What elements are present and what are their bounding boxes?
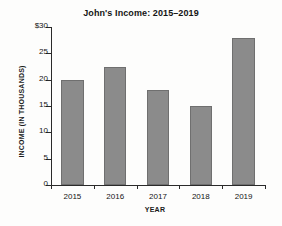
y-tick-label: 0: [44, 179, 48, 188]
x-tick-mark: [51, 185, 52, 189]
x-tick-mark: [137, 185, 138, 189]
bar-chart-figure: John's Income: 2015–2019 INCOME (IN THOU…: [0, 0, 282, 226]
y-axis-line: [51, 27, 52, 186]
bar-2016: [104, 67, 126, 186]
chart-title: John's Income: 2015–2019: [0, 8, 282, 18]
x-axis-line: [51, 185, 265, 186]
bar-2018: [190, 106, 212, 185]
x-category-label-2017: 2017: [137, 192, 180, 201]
y-tick-label: 15: [39, 100, 48, 109]
x-axis-title: YEAR: [40, 206, 270, 213]
y-tick-label: 20: [39, 74, 48, 83]
x-category-label-2019: 2019: [222, 192, 265, 201]
x-tick-mark: [222, 185, 223, 189]
x-tick-mark: [265, 185, 266, 189]
y-tick-label: 25: [39, 47, 48, 56]
x-category-label-2015: 2015: [51, 192, 94, 201]
bar-2019: [232, 38, 254, 185]
x-tick-mark: [179, 185, 180, 189]
y-tick-label: $30: [35, 21, 48, 30]
plot-area: $302520151050: [51, 27, 265, 185]
y-tick-label: 5: [44, 153, 48, 162]
x-category-label-2018: 2018: [179, 192, 222, 201]
bar-2015: [61, 80, 83, 185]
y-axis-title: INCOME (IN THOUSANDS): [18, 47, 25, 177]
x-category-label-2016: 2016: [94, 192, 137, 201]
x-tick-mark: [94, 185, 95, 189]
y-tick-label: 10: [39, 126, 48, 135]
bar-2017: [147, 90, 169, 185]
